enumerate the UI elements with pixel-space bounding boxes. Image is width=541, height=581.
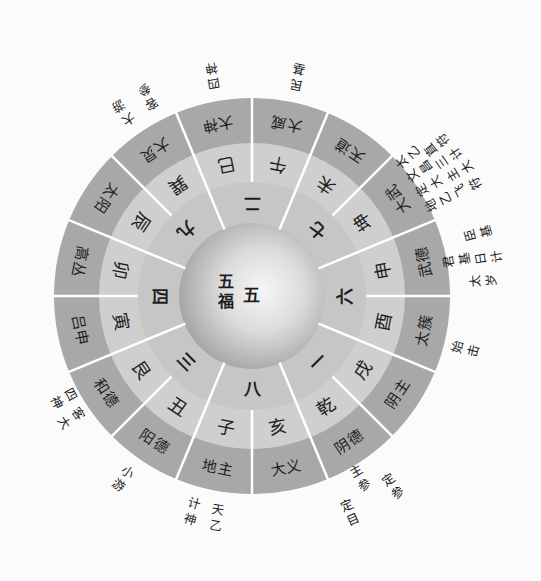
branch-label: 酉 xyxy=(373,312,394,333)
branch-label: 卯 xyxy=(110,259,131,280)
palace-number: 六 xyxy=(337,288,354,305)
center-palace-number: 五 xyxy=(243,287,260,304)
palace-number: 二 xyxy=(244,195,261,212)
taiyi-nine-palace-diagram: 大威 天道 大武 武德 太簇 阴主 阴德 大义 地主 阳德 和德 吕申 高丛 太… xyxy=(0,0,541,581)
palace-number: 四 xyxy=(151,288,168,305)
center-label: 五福 xyxy=(214,273,234,313)
branch-label: 巳 xyxy=(215,154,236,175)
palace-number: 八 xyxy=(244,381,261,398)
branch-label: 申 xyxy=(373,259,394,280)
branch-label: 子 xyxy=(215,417,236,438)
annotation-text: 太岁 xyxy=(468,274,501,290)
wheel-graphic xyxy=(0,0,541,581)
branch-label: 寅 xyxy=(110,312,131,333)
branch-label: 午 xyxy=(268,154,289,175)
branch-label: 亥 xyxy=(268,417,289,438)
